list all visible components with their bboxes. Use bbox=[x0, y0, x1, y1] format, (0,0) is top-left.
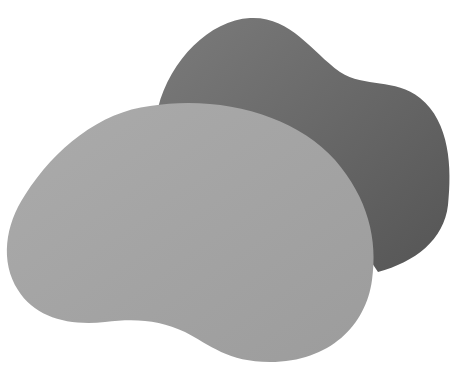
blob-illustration bbox=[0, 0, 457, 372]
